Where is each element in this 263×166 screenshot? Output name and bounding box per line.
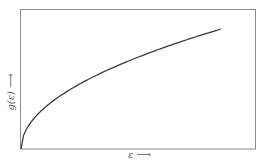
y-axis-arrow-icon: ⟶ (5, 73, 16, 87)
data-curve (21, 29, 221, 149)
x-axis-arrow-icon: ⟶ (137, 149, 151, 160)
y-axis-label-text: g(ε) (5, 91, 16, 111)
x-axis-label: ε ⟶ (128, 149, 151, 160)
y-axis-label: g(ε) ⟶ (2, 62, 18, 122)
x-axis-label-text: ε (128, 149, 133, 160)
plot-frame (21, 10, 256, 150)
chart-canvas (0, 0, 263, 166)
